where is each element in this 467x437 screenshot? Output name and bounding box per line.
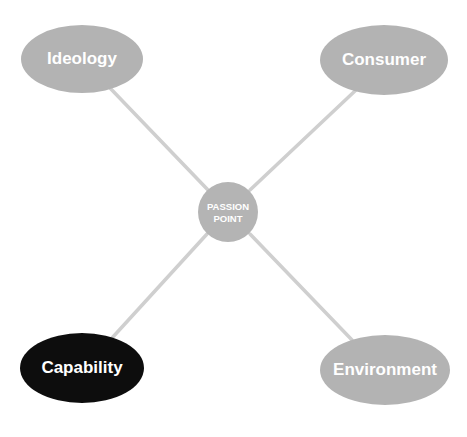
connector-capability [112, 234, 207, 338]
node-consumer-label: Consumer [342, 50, 426, 69]
center-node-label-line1: PASSION [207, 201, 249, 212]
connector-ideology [110, 88, 208, 190]
connector-environment [250, 234, 352, 340]
passion-point-diagram: Ideology Consumer Capability Environment… [0, 0, 467, 437]
node-capability[interactable]: Capability [20, 333, 144, 403]
node-ideology-label: Ideology [47, 49, 117, 68]
center-node-label-line2: POINT [213, 213, 242, 224]
node-environment[interactable]: Environment [320, 335, 450, 405]
node-consumer[interactable]: Consumer [320, 25, 448, 95]
connector-consumer [250, 90, 356, 190]
node-capability-label: Capability [41, 358, 123, 377]
node-environment-label: Environment [333, 360, 437, 379]
node-ideology[interactable]: Ideology [21, 25, 143, 93]
center-node-passion-point[interactable]: PASSION POINT [198, 182, 258, 242]
